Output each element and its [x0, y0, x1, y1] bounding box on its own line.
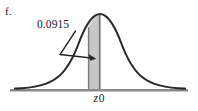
probability-value-label: 0.0915 — [37, 19, 69, 31]
axis-tick-label: z0 — [0, 93, 198, 105]
axis-tick-subscript: 0 — [98, 92, 105, 104]
annotation-leader-line — [60, 31, 75, 54]
panel-label: f. — [5, 6, 11, 17]
normal-distribution-figure: f. 0.0915 z0 — [0, 0, 198, 111]
shaded-area-region — [88, 14, 100, 90]
